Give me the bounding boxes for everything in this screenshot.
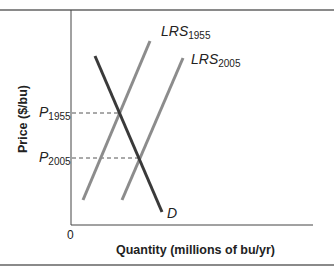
demand-label: D: [167, 205, 177, 221]
p1955-label: P1955: [39, 104, 71, 122]
lrs2005-label: LRS2005: [191, 51, 240, 69]
lrs1955-label: LRS1955: [161, 23, 210, 41]
p2005-label: P2005: [39, 149, 71, 167]
lrs2005-curve: [122, 58, 183, 200]
y-axis-title: Price ($/bu): [16, 79, 30, 159]
lrs1955-curve: [83, 41, 150, 200]
x-axis-title: Quantity (millions of bu/yr): [116, 243, 275, 257]
origin-label: 0: [67, 228, 74, 242]
